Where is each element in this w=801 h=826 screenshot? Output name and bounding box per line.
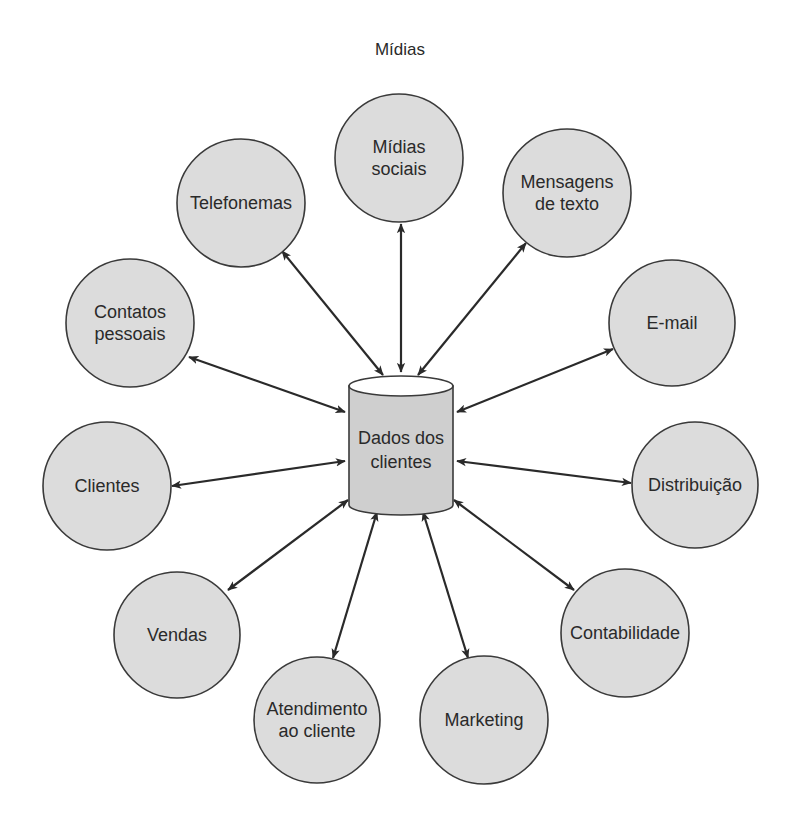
node-mensagens-de-texto: Mensagensde texto	[503, 129, 631, 257]
cylinder-top	[349, 376, 453, 396]
node-label: pessoais	[94, 324, 165, 344]
node-label: Contatos	[94, 302, 166, 322]
node-label: Telefonemas	[190, 193, 292, 213]
arrow-clientes	[172, 461, 345, 486]
cylinder-body	[349, 386, 453, 515]
node-circle	[335, 94, 463, 222]
node-label: Mídias	[372, 137, 425, 157]
arrow-contabilidade	[454, 500, 574, 590]
node-label: Contabilidade	[570, 623, 680, 643]
node-midias-sociais: Mídiassociais	[335, 94, 463, 222]
node-label: E-mail	[646, 313, 697, 333]
arrow-vendas	[228, 500, 348, 590]
arrow-telefonemas	[282, 251, 383, 375]
hub-diagram: Mídias MídiassociaisTelefonemasMensagens…	[0, 0, 801, 826]
cylinder-label: Dados dos	[358, 428, 444, 448]
arrow-marketing	[423, 512, 468, 658]
arrow-contatos-pessoais	[189, 357, 345, 412]
node-vendas: Vendas	[114, 572, 240, 698]
node-clientes: Clientes	[43, 422, 171, 550]
node-contabilidade: Contabilidade	[561, 569, 689, 697]
node-contatos-pessoais: Contatospessoais	[66, 259, 194, 387]
node-label: sociais	[371, 159, 426, 179]
diagram-title: Mídias	[375, 40, 425, 59]
node-circle	[66, 259, 194, 387]
node-label: Distribuição	[648, 475, 742, 495]
node-label: Vendas	[147, 625, 207, 645]
node-atendimento-ao-cliente: Atendimentoao cliente	[254, 657, 380, 783]
node-circle	[503, 129, 631, 257]
cylinder-label: clientes	[370, 452, 431, 472]
node-telefonemas: Telefonemas	[177, 139, 305, 267]
customer-data-cylinder: Dados dosclientes	[349, 376, 453, 515]
node-label: Atendimento	[266, 699, 367, 719]
node-label: Mensagens	[520, 172, 613, 192]
node-circle	[254, 657, 380, 783]
node-label: Marketing	[444, 710, 523, 730]
node-label: Clientes	[74, 476, 139, 496]
node-label: de texto	[535, 194, 599, 214]
arrow-e-mail	[457, 349, 613, 412]
node-distribuicao: Distribuição	[632, 422, 758, 548]
node-marketing: Marketing	[420, 656, 548, 784]
arrow-distribuicao	[457, 461, 631, 483]
arrow-atendimento-ao-cliente	[333, 512, 377, 658]
node-e-mail: E-mail	[609, 260, 735, 386]
arrow-mensagens-de-texto	[418, 243, 526, 375]
node-label: ao cliente	[278, 721, 355, 741]
